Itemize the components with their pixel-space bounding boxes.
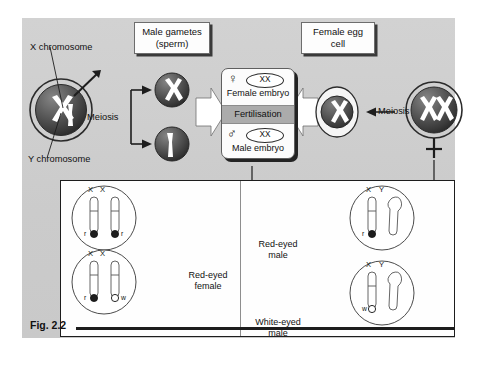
female-genotype: XX (246, 73, 284, 88)
chrom-label-m2-y: Y (379, 260, 384, 269)
caption-red-eyed-male-line2: male (243, 250, 313, 261)
genotype-circle-male-1 (350, 186, 414, 250)
genotype-circle-male-2 (350, 261, 414, 325)
figure-rule (76, 327, 455, 330)
fertilisation-bar: Fertilisation (222, 105, 294, 124)
chrom-label-f1-x2: X (100, 185, 105, 194)
allele-label-f1-right: r (121, 230, 123, 237)
female-embryo-row: ♀ XX Female embryo (222, 69, 294, 105)
chrom-label-f2-x1: X (88, 249, 93, 258)
genotype-circle-female-2 (72, 250, 136, 314)
female-symbol: ♀ (228, 72, 238, 85)
genotype-circle-female-1 (72, 186, 136, 250)
callout-male-gametes-line1: Male gametes (139, 26, 205, 38)
genotype-circles (0, 0, 491, 371)
allele-label-f2-right: w (121, 294, 126, 301)
allele-label-m2: w (362, 305, 367, 312)
callout-female-egg-line1: Female egg (306, 26, 370, 38)
caption-red-eyed-female: Red-eyed female (172, 270, 244, 291)
label-x-chromosome: X chromosome (30, 42, 93, 53)
chrom-label-f2-x2: X (100, 249, 105, 258)
chrom-label-m1-y: Y (379, 185, 384, 194)
label-meiosis-right: Meiosis (378, 106, 410, 117)
caption-red-eyed-male: Red-eyed male (243, 239, 313, 260)
chrom-label-m2-x: X (366, 260, 371, 269)
fertilisation-box: ♀ XX Female embryo Fertilisation ♂ XX Ma… (221, 68, 295, 159)
chrom-label-f1-x1: X (88, 185, 93, 194)
label-y-chromosome: Y chromosome (28, 154, 90, 165)
figure-2-2: X chromosome Y chromosome Meiosis Meiosi… (0, 0, 491, 371)
caption-white-eyed-male-line1: White-eyed (241, 317, 315, 328)
callout-female-egg-line2: cell (306, 38, 370, 50)
callout-male-gametes: Male gametes (sperm) (134, 22, 210, 54)
allele-label-f2-left: r (84, 294, 86, 301)
female-embryo-caption: Female embryo (222, 88, 294, 98)
male-embryo-row: ♂ XX Male embryo (222, 124, 294, 159)
caption-red-eyed-male-line1: Red-eyed (243, 239, 313, 250)
male-genotype: XX (246, 128, 284, 143)
callout-female-egg: Female egg cell (301, 22, 375, 54)
allele-label-f1-left: r (84, 230, 86, 237)
caption-red-eyed-female-line1: Red-eyed (172, 270, 244, 281)
allele-label-m1: r (362, 230, 364, 237)
male-embryo-caption: Male embryo (222, 143, 294, 153)
callout-male-gametes-line2: (sperm) (139, 38, 205, 50)
figure-number: Fig. 2.2 (30, 319, 66, 331)
label-meiosis-left: Meiosis (87, 112, 119, 123)
male-symbol: ♂ (227, 127, 237, 140)
chrom-label-m1-x: X (366, 185, 371, 194)
caption-red-eyed-female-line2: female (172, 281, 244, 292)
